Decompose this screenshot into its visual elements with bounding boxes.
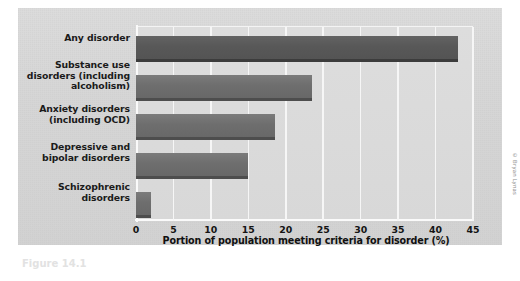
y-label-line: Anxiety disorders (26, 104, 130, 115)
y-label-line: Any disorder (26, 33, 130, 44)
bar-0 (136, 36, 458, 59)
y-label-line: alcoholism) (26, 81, 130, 92)
figure-caption-remnant: Figure 14.1 (22, 258, 86, 269)
x-tick-label-35: 35 (392, 224, 405, 235)
x-axis-title: Portion of population meeting criteria f… (136, 235, 476, 246)
y-axis-labels: Any disorder Substance use disorders (in… (26, 24, 130, 214)
figure-page: Any disorder Substance use disorders (in… (0, 0, 520, 281)
bar-row (136, 71, 473, 110)
bar-4 (136, 192, 151, 215)
y-label-line: Depressive and (26, 142, 130, 153)
y-label-line: (including OCD) (26, 115, 130, 126)
y-label-line: Substance use (26, 60, 130, 71)
y-label-line: Schizophrenic (26, 182, 130, 193)
image-credit: © Bryan Lynas (512, 152, 518, 195)
y-label-line: disorders (26, 193, 130, 204)
plot-area (136, 26, 473, 221)
x-tick-label-25: 25 (317, 224, 330, 235)
bar-row (136, 149, 473, 188)
x-tick-label-45: 45 (466, 224, 479, 235)
bar-2 (136, 114, 275, 137)
bar-row (136, 32, 473, 71)
y-axis-label-anxiety: Anxiety disorders (including OCD) (26, 104, 130, 125)
x-tick-label-30: 30 (354, 224, 367, 235)
y-axis-label-substance-use: Substance use disorders (including alcoh… (26, 60, 130, 92)
x-tick-label-40: 40 (429, 224, 442, 235)
y-label-line: bipolar disorders (26, 153, 130, 164)
x-tick-label-10: 10 (204, 224, 217, 235)
x-tick-label-5: 5 (170, 224, 177, 235)
bar-row (136, 110, 473, 149)
bar-row (136, 188, 473, 227)
bar-3 (136, 153, 248, 176)
y-axis-label-schizophrenic: Schizophrenic disorders (26, 182, 130, 203)
x-tick-label-0: 0 (133, 224, 140, 235)
x-tick-label-15: 15 (242, 224, 255, 235)
bar-1 (136, 75, 312, 98)
y-axis-label-any-disorder: Any disorder (26, 33, 130, 44)
y-axis-label-depressive: Depressive and bipolar disorders (26, 142, 130, 163)
x-tick-label-20: 20 (279, 224, 292, 235)
